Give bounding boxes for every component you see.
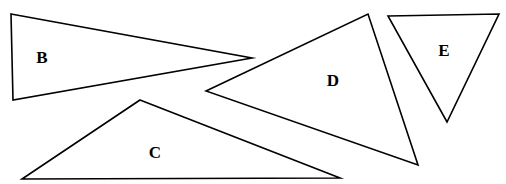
triangle-d-label: D xyxy=(327,72,339,89)
triangle-c-label: C xyxy=(149,144,161,161)
figure-canvas: B C D E xyxy=(0,0,506,184)
triangle-b-label: B xyxy=(36,49,47,66)
triangle-e-outline xyxy=(388,14,499,122)
triangle-e-label: E xyxy=(438,42,449,59)
triangles-diagram xyxy=(0,0,506,184)
